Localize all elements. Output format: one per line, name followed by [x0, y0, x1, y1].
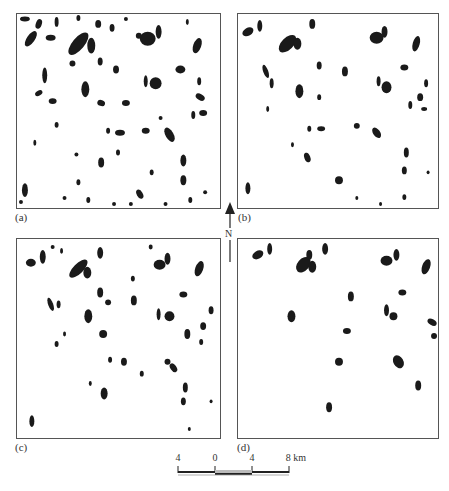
north-arrow: N: [222, 202, 238, 264]
scale-tick-4: 4: [250, 452, 255, 463]
scale-bar: 4 0 4 8 km: [172, 452, 292, 482]
map-panel-d: [237, 238, 439, 439]
map-panel-a: [16, 13, 221, 209]
panel-label-b: (b): [238, 211, 251, 223]
map-panel-b: [237, 13, 439, 209]
blob-pattern-a: [17, 14, 220, 208]
panel-label-c: (c): [15, 441, 27, 453]
blob-pattern-b: [238, 14, 438, 208]
map-panel-c: [16, 238, 221, 439]
scale-tick-left-4: 4: [176, 452, 181, 463]
panel-label-a: (a): [15, 211, 27, 223]
scale-tick-0: 0: [213, 452, 218, 463]
scale-tick-8km: 8 km: [286, 452, 306, 463]
north-label: N: [225, 228, 232, 239]
blob-pattern-c: [17, 239, 220, 438]
blob-pattern-d: [238, 239, 438, 438]
scale-bar-graphic: [176, 466, 300, 480]
